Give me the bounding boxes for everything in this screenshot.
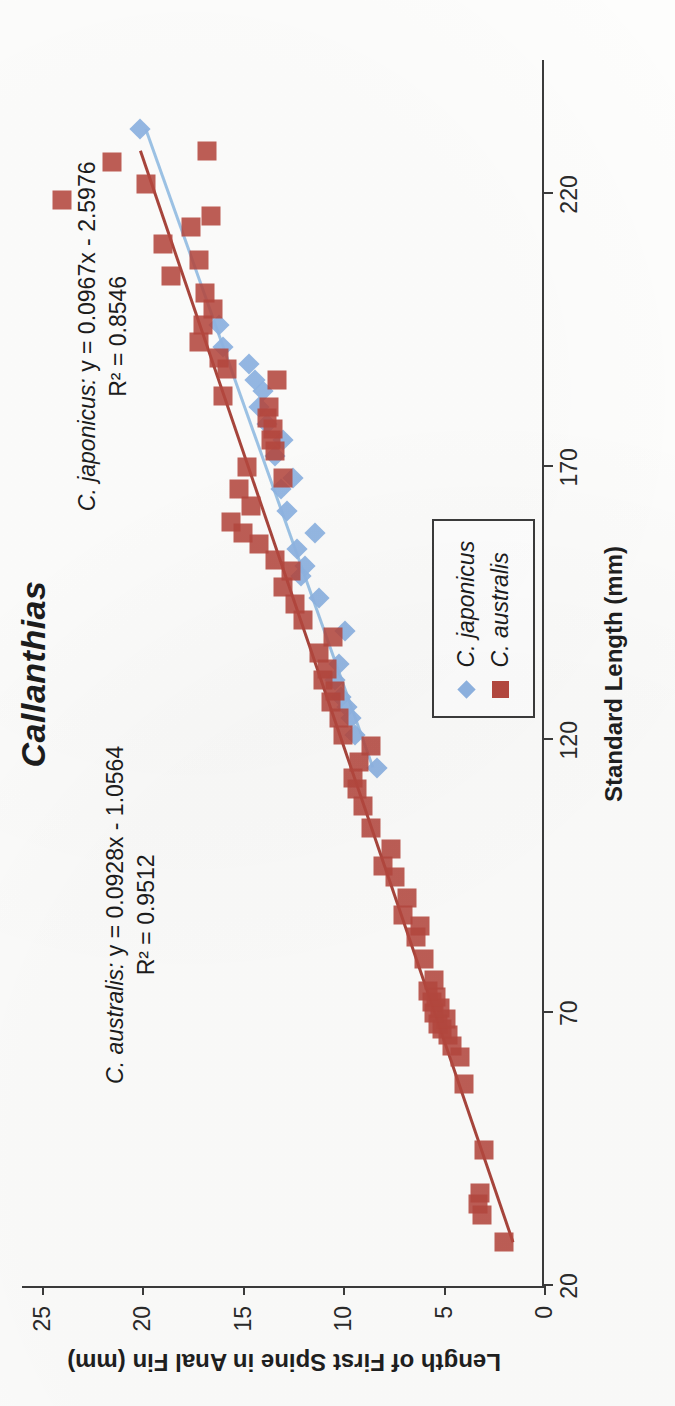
- data-point: [354, 796, 373, 815]
- data-point: [195, 283, 214, 302]
- data-point: [197, 141, 216, 160]
- x-tick: [544, 1011, 553, 1013]
- y-tick-label: 15: [229, 1306, 256, 1332]
- legend-item-australis: C. australis: [487, 541, 514, 703]
- y-axis-title: Length of First Spine in Anal Fin (mm): [4, 1348, 564, 1376]
- annotation-japonicus: C. japonicus: y = 0.0967x - 2.5976 R² = …: [72, 162, 133, 512]
- y-tick: [243, 1286, 245, 1295]
- data-point: [189, 332, 208, 351]
- data-point: [161, 267, 180, 286]
- data-point: [362, 736, 381, 755]
- data-point: [137, 174, 156, 193]
- data-point: [265, 551, 284, 570]
- y-tick: [444, 1286, 446, 1295]
- annotation-australis-equation: y = 0.0928x - 1.0564: [102, 746, 128, 963]
- chart-legend: C. japonicus C. australis: [432, 519, 535, 719]
- data-point: [454, 1075, 473, 1094]
- x-tick-label: 120: [556, 721, 583, 759]
- annotation-australis: C. australis: y = 0.0928x - 1.0564 R² = …: [100, 746, 161, 1084]
- data-point: [382, 840, 401, 859]
- data-point: [209, 349, 228, 368]
- data-point: [494, 1233, 513, 1252]
- x-tick: [544, 738, 553, 740]
- diamond-marker-icon: [460, 676, 473, 702]
- data-point: [237, 458, 256, 477]
- data-point: [274, 469, 293, 488]
- y-tick: [142, 1286, 144, 1295]
- data-point: [334, 725, 353, 744]
- data-point: [153, 234, 172, 253]
- legend-label-japonicus: C. japonicus: [453, 541, 480, 668]
- data-point: [241, 496, 260, 515]
- data-point: [470, 1184, 489, 1203]
- x-axis-title: Standard Length (mm): [600, 60, 628, 1288]
- data-point: [294, 611, 313, 630]
- x-tick: [544, 192, 553, 194]
- x-tick-label: 20: [556, 1273, 583, 1299]
- data-point: [414, 949, 433, 968]
- annotation-australis-species: C. australis:: [102, 963, 128, 1084]
- data-point: [193, 316, 212, 335]
- y-tick-label: 10: [330, 1306, 357, 1332]
- y-tick: [42, 1286, 44, 1295]
- data-point: [362, 818, 381, 837]
- data-point: [474, 1140, 493, 1159]
- data-point: [344, 769, 363, 788]
- data-point: [53, 190, 72, 209]
- data-point: [318, 660, 337, 679]
- data-point: [394, 905, 413, 924]
- annotation-japonicus-equation: y = 0.0967x - 2.5976: [74, 162, 100, 379]
- data-point: [259, 398, 278, 417]
- data-point: [274, 578, 293, 597]
- square-marker-icon: [492, 676, 509, 702]
- data-point: [286, 594, 305, 613]
- data-point: [201, 207, 220, 226]
- data-point: [374, 856, 393, 875]
- data-point: [213, 387, 232, 406]
- rotated-figure-wrapper: Callanthias 2070120170220 0510152025 C. …: [0, 0, 675, 1406]
- y-tick: [343, 1286, 345, 1295]
- data-point: [330, 709, 349, 728]
- data-point: [203, 300, 222, 319]
- data-point: [324, 627, 343, 646]
- y-tick-label: 0: [531, 1306, 558, 1319]
- legend-label-australis: C. australis: [487, 552, 514, 667]
- chart-figure: Callanthias 2070120170220 0510152025 C. …: [0, 0, 675, 1406]
- y-tick: [544, 1286, 546, 1295]
- data-point: [310, 643, 329, 662]
- data-point: [221, 512, 240, 531]
- annotation-japonicus-species: C. japonicus:: [74, 378, 100, 511]
- y-tick-label: 25: [29, 1306, 56, 1332]
- y-tick-label: 5: [430, 1306, 457, 1319]
- x-tick-label: 70: [556, 1000, 583, 1026]
- y-tick-label: 20: [129, 1306, 156, 1332]
- data-point: [398, 889, 417, 908]
- annotation-japonicus-r2: R² = 0.8546: [104, 276, 130, 397]
- x-tick: [544, 465, 553, 467]
- data-point: [189, 250, 208, 269]
- data-point: [229, 480, 248, 499]
- data-point: [267, 371, 286, 390]
- data-point: [350, 753, 369, 772]
- legend-item-japonicus: C. japonicus: [453, 541, 480, 703]
- data-point: [424, 971, 443, 990]
- annotation-australis-r2: R² = 0.9512: [132, 854, 158, 975]
- x-tick-label: 220: [556, 175, 583, 213]
- plot-area: 2070120170220 0510152025 C. australis: y…: [22, 60, 544, 1288]
- data-point: [181, 218, 200, 237]
- x-tick-label: 170: [556, 448, 583, 486]
